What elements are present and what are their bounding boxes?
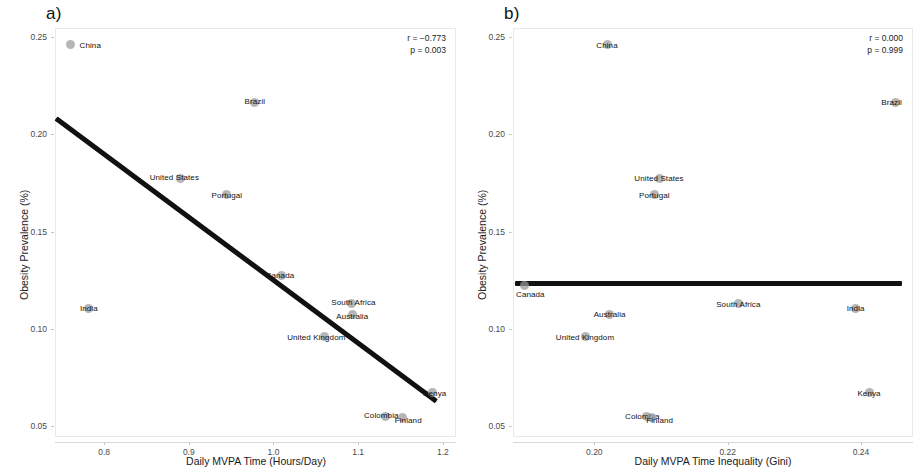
y-tick-mark xyxy=(51,329,54,330)
data-point-label: Portugal xyxy=(639,190,670,199)
y-tick-mark xyxy=(509,134,512,135)
y-tick-mark xyxy=(51,232,54,233)
data-point-label: Canada xyxy=(516,290,545,299)
panel-b-data-layer: ChinaBrazilUnited StatesPortugalCanadaSo… xyxy=(457,0,913,473)
data-point-label: South Africa xyxy=(716,299,760,308)
y-tick-label: 0.15 xyxy=(477,227,505,237)
data-point-label: Finland xyxy=(646,415,673,424)
panel-a-r-value: r = −0.773 xyxy=(407,32,446,44)
data-point-label: Colombia xyxy=(364,411,399,420)
y-tick-label: 0.20 xyxy=(19,129,47,139)
data-point-label: Brazil xyxy=(245,97,266,106)
data-point xyxy=(520,281,529,290)
data-point-label: China xyxy=(596,40,617,49)
x-tick-label: 0.8 xyxy=(98,447,110,457)
data-point-label: Kenya xyxy=(857,388,880,397)
y-tick-label: 0.10 xyxy=(19,324,47,334)
figure-scatter-panels: a) ChinaBrazilUnited StatesPortugalCanad… xyxy=(0,0,913,473)
panel-a-x-axis-line xyxy=(55,442,456,443)
y-tick-mark xyxy=(509,232,512,233)
panel-a: a) ChinaBrazilUnited StatesPortugalCanad… xyxy=(0,0,456,473)
y-tick-label: 0.05 xyxy=(477,421,505,431)
data-point-label: South Africa xyxy=(331,297,375,306)
x-tick-label: 0.9 xyxy=(183,447,195,457)
panel-a-x-axis-title: Daily MVPA Time (Hours/Day) xyxy=(186,455,326,467)
panel-b-stats-annotation: r = 0.000 p = 0.999 xyxy=(867,32,903,57)
panel-b-x-axis-line xyxy=(513,442,913,443)
x-tick-mark xyxy=(273,442,274,445)
data-point-label: China xyxy=(80,40,101,49)
y-tick-mark xyxy=(509,329,512,330)
data-point-label: Finland xyxy=(395,415,422,424)
x-tick-mark xyxy=(861,442,862,445)
panel-a-data-layer: ChinaBrazilUnited StatesPortugalCanadaSo… xyxy=(0,0,456,473)
data-point-label: India xyxy=(847,304,865,313)
data-point-label: Brazil xyxy=(881,98,902,107)
y-tick-label: 0.25 xyxy=(477,32,505,42)
y-tick-label: 0.05 xyxy=(19,421,47,431)
x-tick-mark xyxy=(443,442,444,445)
data-point-label: Portugal xyxy=(212,190,243,199)
data-point-label: India xyxy=(80,304,98,313)
x-tick-label: 1.2 xyxy=(437,447,449,457)
x-tick-mark xyxy=(189,442,190,445)
data-point-label: United States xyxy=(634,174,683,183)
x-tick-label: 0.20 xyxy=(586,447,603,457)
data-point-label: Australia xyxy=(336,312,368,321)
regression-trend-line xyxy=(55,116,438,403)
data-point-label: Kenya xyxy=(423,388,446,397)
x-tick-mark xyxy=(358,442,359,445)
x-tick-mark xyxy=(594,442,595,445)
panel-b-x-axis-title: Daily MVPA Time Inequality (Gini) xyxy=(635,455,792,467)
y-tick-label: 0.10 xyxy=(477,324,505,334)
data-point-label: United Kingdom xyxy=(556,332,614,341)
panel-b-p-value: p = 0.999 xyxy=(867,44,903,56)
data-point-label: United Kingdom xyxy=(287,332,345,341)
y-tick-mark xyxy=(51,134,54,135)
x-tick-label: 1.0 xyxy=(268,447,280,457)
y-tick-label: 0.15 xyxy=(19,227,47,237)
data-point-label: Australia xyxy=(594,310,626,319)
y-tick-mark xyxy=(509,37,512,38)
regression-trend-line xyxy=(515,281,902,286)
x-tick-mark xyxy=(104,442,105,445)
panel-a-stats-annotation: r = −0.773 p = 0.003 xyxy=(407,32,446,57)
panel-b-r-value: r = 0.000 xyxy=(867,32,903,44)
x-tick-mark xyxy=(728,442,729,445)
y-tick-label: 0.25 xyxy=(19,32,47,42)
data-point xyxy=(66,40,75,49)
panel-b: b) ChinaBrazilUnited StatesPortugalCanad… xyxy=(457,0,913,473)
panel-a-y-axis-title: Obesity Prevalence (%) xyxy=(18,190,30,300)
y-tick-mark xyxy=(51,37,54,38)
x-tick-label: 1.1 xyxy=(352,447,364,457)
data-point-label: United States xyxy=(150,173,199,182)
x-tick-label: 0.22 xyxy=(719,447,736,457)
x-tick-label: 0.24 xyxy=(853,447,870,457)
panel-b-y-axis-title: Obesity Prevalence (%) xyxy=(476,190,488,300)
panel-a-p-value: p = 0.003 xyxy=(407,44,446,56)
data-point-label: Canada xyxy=(266,271,295,280)
y-tick-label: 0.20 xyxy=(477,129,505,139)
y-tick-mark xyxy=(509,426,512,427)
y-tick-mark xyxy=(51,426,54,427)
